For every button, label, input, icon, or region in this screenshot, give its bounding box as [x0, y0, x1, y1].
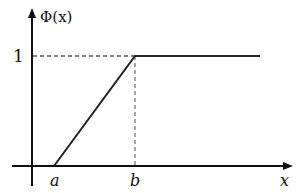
y-axis-arrow-icon [28, 8, 36, 18]
tick-label-b: b [130, 171, 140, 190]
x-axis-arrow-icon [283, 162, 293, 170]
tick-label-one: 1 [13, 46, 24, 66]
phi-function-line [54, 56, 260, 166]
cdf-chart: Φ(x) 1 a b x [0, 0, 300, 193]
tick-label-a: a [50, 171, 60, 190]
y-axis-label: Φ(x) [40, 8, 72, 26]
x-axis-label: x [280, 171, 289, 190]
